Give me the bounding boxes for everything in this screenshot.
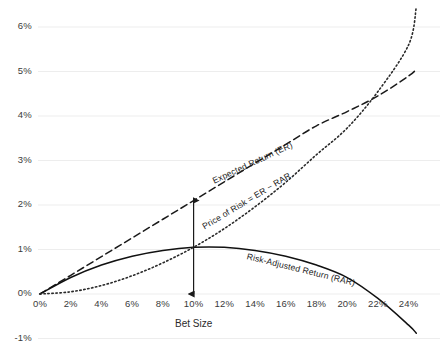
y-tick-label: 4% (2, 109, 32, 120)
series-path-2 (40, 7, 416, 294)
x-tick-label: 14% (238, 298, 272, 309)
y-tick-label: 5% (2, 65, 32, 76)
x-tick-label: 12% (207, 298, 241, 309)
y-tick-label: 6% (2, 20, 32, 31)
x-tick-label: 10% (177, 298, 211, 309)
x-tick-label: 20% (330, 298, 364, 309)
x-axis-title: Bet Size (134, 318, 254, 329)
y-tick-label: 1% (2, 243, 32, 254)
x-tick-label: 2% (54, 298, 88, 309)
x-tick-label: 16% (269, 298, 303, 309)
x-tick-label: 8% (146, 298, 180, 309)
x-tick-label: 22% (361, 298, 395, 309)
gridlines (38, 27, 440, 339)
x-tick-label: 6% (115, 298, 149, 309)
x-tick-label: 18% (299, 298, 333, 309)
y-tick-label: 3% (2, 154, 32, 165)
series-path-0 (40, 69, 416, 294)
y-tick-label: -1% (2, 332, 32, 343)
chart-container: -1%0%1%2%3%4%5%6% 0%2%4%6%8%10%12%14%16%… (0, 0, 440, 363)
x-tick-label: 24% (392, 298, 426, 309)
y-tick-label: 2% (2, 198, 32, 209)
y-tick-label: 0% (2, 287, 32, 298)
x-tick-label: 4% (84, 298, 118, 309)
x-tick-label: 0% (23, 298, 57, 309)
